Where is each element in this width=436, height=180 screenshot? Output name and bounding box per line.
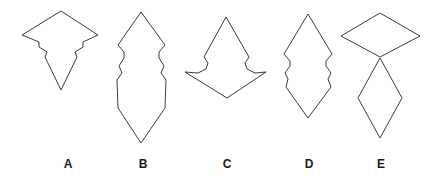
shape-label-d: D [297, 157, 321, 171]
shape-label-c: C [215, 157, 239, 171]
shape-e-lower-diamond [358, 58, 402, 138]
shape-b [117, 12, 166, 143]
shape-b-outline [117, 12, 166, 143]
shape-label-b: B [131, 157, 155, 171]
shape-label-e: E [369, 157, 393, 171]
shape-e-upper-diamond [341, 13, 420, 57]
shapes-canvas [0, 0, 436, 180]
shape-e [341, 13, 420, 138]
shapes-figure: A B C D E [0, 0, 436, 180]
shape-a [22, 11, 98, 90]
shape-d-outline [284, 14, 332, 118]
shape-c [185, 17, 266, 98]
shape-c-outline [185, 17, 266, 98]
shape-a-outline [22, 11, 98, 90]
shape-label-a: A [56, 157, 80, 171]
shape-d [284, 14, 332, 118]
